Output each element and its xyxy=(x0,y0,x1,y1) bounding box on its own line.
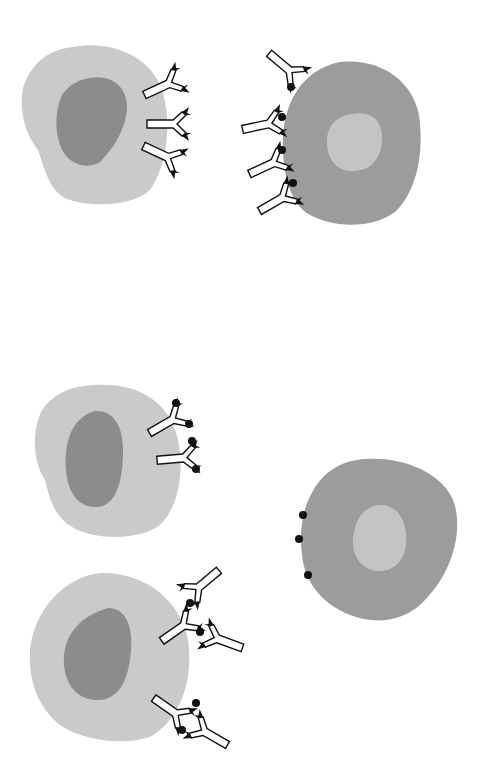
antigen-dot xyxy=(278,113,286,121)
antigen-dot xyxy=(186,599,194,607)
cell-nucleus xyxy=(327,113,382,171)
antibody xyxy=(174,557,230,611)
antigen-dot xyxy=(289,179,297,187)
target-cell-top-right xyxy=(283,62,421,225)
diagram-canvas xyxy=(0,0,481,781)
antigen-dot xyxy=(172,399,180,407)
antigen-dot xyxy=(185,420,193,428)
effector-cell-bottom-left xyxy=(30,573,190,741)
antigen-dot xyxy=(299,511,307,519)
antigen-dot xyxy=(287,83,295,91)
antigen-dot xyxy=(192,465,200,473)
antigen-dot xyxy=(196,628,204,636)
antigen-dot xyxy=(188,437,196,445)
antigen-dot xyxy=(192,699,200,707)
antibody xyxy=(181,708,236,759)
antigen-dot xyxy=(304,571,312,579)
antibody xyxy=(239,104,289,146)
target-cell-middle-right xyxy=(301,459,457,621)
effector-cell-top-left xyxy=(22,45,168,204)
antigen-dot xyxy=(278,146,286,154)
antigen-dot xyxy=(178,726,186,734)
antibody xyxy=(195,617,248,664)
antigen-dot xyxy=(295,535,303,543)
